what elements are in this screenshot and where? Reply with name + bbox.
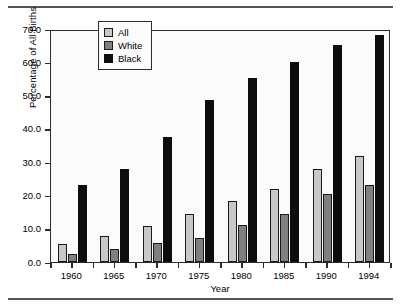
legend-item-white: White <box>104 39 142 52</box>
bar-group <box>179 31 222 262</box>
y-tick-label: 0.0 <box>28 257 41 268</box>
legend-label: White <box>118 41 142 51</box>
bar-black-1960 <box>78 185 87 262</box>
bar-group <box>264 31 307 262</box>
y-tick-label: 60.0 <box>23 57 42 68</box>
x-tick-mark-center <box>241 263 243 268</box>
x-tick-mark <box>348 263 350 268</box>
legend-item-all: All <box>104 26 142 39</box>
bar-black-1990 <box>333 45 342 262</box>
x-tick-mark-center <box>114 263 116 268</box>
figure-container: Percentage of All Births 0.010.020.030.0… <box>0 0 401 307</box>
y-tick-label: 40.0 <box>23 123 42 134</box>
x-tick-mark <box>390 263 392 268</box>
top-horizontal-rule <box>8 6 393 8</box>
x-tick-label-1994: 1994 <box>346 270 392 281</box>
bar-all-1975 <box>185 214 194 262</box>
x-tick-label-1970: 1970 <box>133 270 179 281</box>
chart-legend: AllWhiteBlack <box>98 21 152 70</box>
x-tick-mark <box>220 263 222 268</box>
legend-swatch-all-icon <box>104 28 113 37</box>
x-tick-mark <box>263 263 265 268</box>
legend-swatch-white-icon <box>104 41 113 50</box>
y-tick-label: 70.0 <box>23 24 42 35</box>
bar-all-1970 <box>143 226 152 262</box>
bar-all-1985 <box>270 189 279 262</box>
y-tick-label: 50.0 <box>23 90 42 101</box>
bar-white-1985 <box>280 214 289 262</box>
x-axis-title: Year <box>50 283 390 294</box>
x-tick-mark-center <box>199 263 201 268</box>
bar-all-1965 <box>100 236 109 262</box>
legend-item-black: Black <box>104 52 142 65</box>
x-tick-label-1985: 1985 <box>261 270 307 281</box>
x-tick-mark-center <box>71 263 73 268</box>
x-tick-mark <box>93 263 95 268</box>
bar-all-1990 <box>313 169 322 262</box>
x-tick-mark-center <box>369 263 371 268</box>
x-tick-mark <box>50 263 52 268</box>
bar-all-1994 <box>355 156 364 263</box>
bar-white-1965 <box>110 249 119 262</box>
legend-swatch-black-icon <box>104 54 113 63</box>
bar-group <box>349 31 392 262</box>
bar-black-1980 <box>248 78 257 262</box>
bar-white-1975 <box>195 238 204 262</box>
bar-group <box>306 31 349 262</box>
bottom-horizontal-rule <box>8 298 393 300</box>
bar-black-1965 <box>120 169 129 262</box>
x-tick-label-1980: 1980 <box>218 270 264 281</box>
x-tick-label-1975: 1975 <box>176 270 222 281</box>
x-tick-mark <box>305 263 307 268</box>
bar-all-1960 <box>58 244 67 262</box>
bar-all-1980 <box>228 201 237 262</box>
bar-black-1970 <box>163 137 172 262</box>
x-tick-mark <box>178 263 180 268</box>
x-tick-mark-center <box>326 263 328 268</box>
x-tick-label-1990: 1990 <box>303 270 349 281</box>
bar-white-1960 <box>68 254 77 262</box>
legend-label: Black <box>118 54 141 64</box>
x-tick-label-1960: 1960 <box>48 270 94 281</box>
x-tick-label-1965: 1965 <box>91 270 137 281</box>
bar-black-1994 <box>375 35 384 262</box>
y-tick-label: 20.0 <box>23 190 42 201</box>
bar-white-1970 <box>153 243 162 262</box>
legend-label: All <box>118 28 129 38</box>
y-tick-label: 10.0 <box>23 223 42 234</box>
bar-white-1994 <box>365 185 374 262</box>
bar-group <box>221 31 264 262</box>
x-tick-mark-center <box>156 263 158 268</box>
bar-black-1985 <box>290 62 299 262</box>
x-tick-mark <box>135 263 137 268</box>
bar-group <box>51 31 94 262</box>
x-tick-mark-center <box>284 263 286 268</box>
y-tick-label: 30.0 <box>23 157 42 168</box>
bar-white-1990 <box>323 194 332 262</box>
bar-black-1975 <box>205 100 214 262</box>
bar-white-1980 <box>238 225 247 262</box>
